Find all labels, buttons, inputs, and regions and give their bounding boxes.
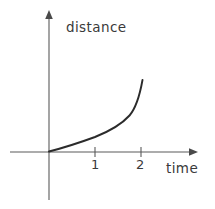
x-tick-label-2: 2 bbox=[136, 158, 145, 171]
x-axis-label: time bbox=[166, 162, 198, 176]
y-axis-label: distance bbox=[66, 21, 126, 35]
distance-time-graph: distance time 1 2 bbox=[0, 0, 215, 209]
x-axis-arrowhead-icon bbox=[189, 148, 198, 155]
y-axis-arrowhead-icon bbox=[45, 10, 53, 19]
x-tick-label-1: 1 bbox=[91, 158, 100, 171]
distance-curve bbox=[49, 80, 143, 152]
